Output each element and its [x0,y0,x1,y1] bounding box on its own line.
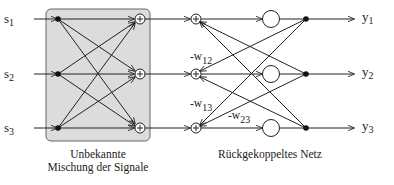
feedback-sum-node-1 [191,14,201,24]
weight-label-w12: -w12 [190,50,212,66]
blind-source-separation-diagram: s1 s2 s3 y1 y2 y3 -w12 -w13 -w23 Unbekan… [0,0,394,185]
output-arrows [306,19,354,128]
mix-sum-node-2 [135,69,145,79]
input-node-1 [55,16,61,22]
mix-sum-node-3 [135,123,145,133]
input-node-3 [55,125,61,131]
input-label-s2: s2 [4,66,14,83]
output-label-y1: y1 [362,9,374,26]
mixing-box [46,9,150,141]
mixing-caption-line2: Mischung der Signale [48,161,149,174]
feedback-sum-node-3 [191,123,201,133]
mixing-caption-line1: Unbekannte [70,148,126,160]
neuron-3 [263,120,280,137]
output-label-y3: y3 [362,118,374,135]
feedback-sum-node-2 [191,69,201,79]
neuron-1 [263,11,280,28]
output-label-y2: y2 [362,64,374,81]
network-caption: Rückgekoppeltes Netz [218,148,322,161]
weight-label-w23: -w23 [228,109,250,125]
weight-label-w13: -w13 [190,97,212,113]
input-label-s1: s1 [4,11,14,28]
neuron-2 [263,66,280,83]
mix-to-network-arrows [145,19,190,128]
input-label-s3: s3 [4,120,14,137]
input-node-2 [55,71,61,77]
mix-sum-node-1 [135,14,145,24]
